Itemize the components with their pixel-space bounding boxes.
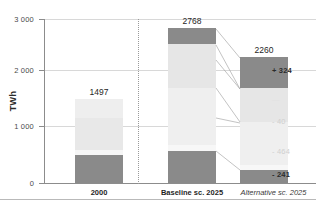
footer-rule [0, 199, 316, 200]
bar-2000-segment-1 [75, 155, 123, 183]
y-tickmark-2000 [39, 70, 44, 71]
y-axis-line [44, 19, 45, 184]
x-tick-label-baseline: Baseline sc. 2025 [155, 188, 229, 197]
y-tickmark-3000 [39, 19, 44, 20]
plot-area: 3 000 2 000 1 000 0 TWh 1497 2768 [0, 0, 316, 208]
delta-label-4: - 241 [272, 170, 290, 179]
bar-baseline-segment-3 [168, 88, 216, 145]
bar-2000-segment-3 [75, 118, 123, 150]
bar-alternative-segment-3 [240, 122, 288, 165]
x-tick-label-2000: 2000 [75, 188, 123, 197]
y-tick-label-3000: 3 000 [0, 15, 34, 24]
y-tick-label-0: 0 [0, 179, 34, 188]
bar-2000-segment-4 [75, 99, 123, 118]
bar-baseline-value-label: 2768 [168, 16, 216, 26]
bar-baseline-segment-5-top [168, 28, 216, 44]
bar-baseline-segment-1 [168, 151, 216, 183]
bar-alternative-value-label: 2260 [240, 45, 288, 55]
x-tick-label-alternative: Alternative sc. 2025 [231, 188, 316, 197]
delta-label-0: + 324 [272, 66, 292, 75]
y-tick-label-2000: 2 000 [0, 66, 34, 75]
chart-canvas: 3 000 2 000 1 000 0 TWh 1497 2768 [0, 0, 316, 208]
delta-label-1: — [272, 95, 280, 104]
y-tickmark-0 [39, 183, 44, 184]
y-axis-title: TWh [8, 76, 18, 126]
scenario-divider [138, 19, 139, 184]
bar-2000[interactable] [75, 99, 123, 183]
bar-baseline-segment-4 [168, 44, 216, 88]
x-axis-line [44, 183, 316, 184]
bar-baseline-2025[interactable] [168, 28, 216, 183]
y-tickmark-1000 [39, 126, 44, 127]
delta-label-3: - 464 [272, 147, 290, 156]
bar-2000-value-label: 1497 [75, 87, 123, 97]
delta-label-2: - 40 [272, 117, 286, 126]
